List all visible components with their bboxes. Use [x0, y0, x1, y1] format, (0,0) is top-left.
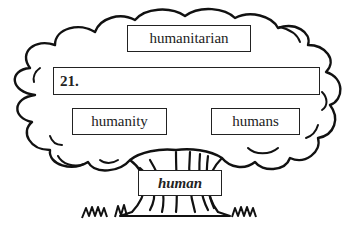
branch-word-box-right: humans [211, 108, 300, 135]
root-word-box: human [138, 170, 222, 196]
branch-word: humanity [91, 113, 148, 130]
branch-word-box-left: humanity [72, 108, 167, 135]
top-word-box: humanitarian [127, 25, 251, 52]
answer-number: 21. [60, 73, 79, 90]
top-word: humanitarian [149, 30, 228, 47]
branch-word: humans [232, 113, 279, 130]
root-word: human [158, 175, 202, 192]
answer-box[interactable]: 21. [53, 67, 320, 95]
